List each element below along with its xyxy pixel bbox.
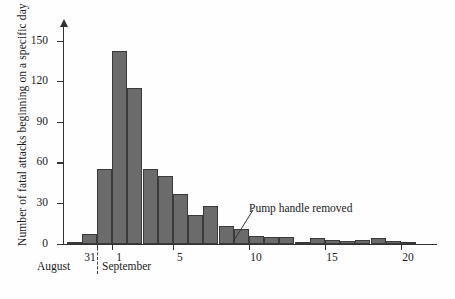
month-band: August September — [63, 260, 437, 276]
histogram-bar — [112, 51, 127, 243]
histogram-bar — [325, 240, 340, 244]
x-tick — [249, 244, 250, 250]
y-tick: 150 — [57, 41, 63, 42]
annotation-pump-handle-removed: Pump handle removed — [249, 202, 352, 214]
y-tick-label: 30 — [37, 197, 49, 209]
x-tick — [325, 244, 326, 250]
x-tick — [173, 244, 174, 250]
histogram-bar — [143, 169, 158, 243]
x-tick — [112, 244, 113, 250]
histogram-bar — [355, 240, 370, 244]
y-tick-label: 150 — [31, 35, 48, 47]
histogram-bar — [310, 238, 325, 243]
x-tick — [401, 244, 402, 250]
y-axis-line — [63, 26, 64, 245]
histogram-bar — [127, 88, 142, 244]
y-tick: 0 — [57, 244, 63, 245]
histogram-bar — [295, 242, 310, 244]
histogram-bar — [188, 215, 203, 243]
histogram-bar — [386, 241, 401, 244]
histogram-bar — [279, 237, 294, 244]
y-tick: 120 — [57, 81, 63, 82]
y-tick-label: 90 — [37, 116, 49, 128]
histogram-bar — [340, 241, 355, 244]
y-tick-label: 120 — [31, 75, 48, 87]
y-tick: 30 — [57, 203, 63, 204]
histogram-bar — [203, 206, 218, 244]
y-axis-title: Number of fatal attacks beginning on a s… — [16, 10, 28, 246]
month-label-august: August — [37, 260, 70, 272]
y-axis-arrow-icon — [60, 19, 68, 27]
cholera-histogram-figure: Number of fatal attacks beginning on a s… — [0, 0, 455, 299]
histogram-bar — [401, 242, 416, 244]
annotation-leader-line — [232, 209, 254, 243]
histogram-bar — [67, 242, 82, 244]
histogram-bar — [82, 234, 97, 243]
histogram-bar — [371, 238, 386, 243]
histogram-bar — [158, 176, 173, 244]
month-label-september: September — [102, 260, 151, 272]
month-divider — [97, 243, 98, 274]
y-tick: 90 — [57, 122, 63, 123]
y-tick-label: 0 — [42, 238, 48, 250]
y-tick-label: 60 — [37, 157, 49, 169]
histogram-bar — [264, 237, 279, 244]
histogram-bar — [173, 194, 188, 244]
y-tick: 60 — [57, 162, 63, 163]
histogram-bar — [97, 169, 112, 243]
